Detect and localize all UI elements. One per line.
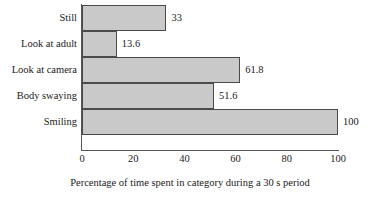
bar-look-at-adult <box>82 31 117 57</box>
bar-smiling <box>82 109 338 135</box>
x-axis-line <box>81 150 339 151</box>
x-tick-label-20: 20 <box>118 154 148 165</box>
x-tick-label-0: 0 <box>67 154 97 165</box>
category-label-still: Still <box>0 13 77 24</box>
bar-row: 100 <box>82 109 338 135</box>
bar-look-at-camera <box>82 57 240 83</box>
category-label-look-at-adult: Look at adult <box>0 39 77 50</box>
bar-value-label: 33 <box>166 13 182 24</box>
category-label-smiling: Smiling <box>0 117 77 128</box>
bar-row: 61.8 <box>82 57 338 83</box>
category-label-body-swaying: Body swaying <box>0 91 77 102</box>
bar-chart-figure: StillLook at adultLook at cameraBody swa… <box>0 0 380 201</box>
x-tick-label-40: 40 <box>169 154 199 165</box>
x-tick-label-60: 60 <box>221 154 251 165</box>
category-label-look-at-camera: Look at camera <box>0 65 77 76</box>
bar-row: 13.6 <box>82 31 338 57</box>
bar-still <box>82 5 166 31</box>
bar-value-label: 100 <box>338 117 359 128</box>
x-tick-label-100: 100 <box>323 154 353 165</box>
x-tick-label-80: 80 <box>272 154 302 165</box>
bar-value-label: 61.8 <box>240 65 263 76</box>
x-axis-title: Percentage of time spent in category dur… <box>0 178 380 189</box>
bar-row: 33 <box>82 5 338 31</box>
plot-area: 3313.661.851.6100 <box>82 0 338 150</box>
bar-value-label: 51.6 <box>214 91 237 102</box>
bar-value-label: 13.6 <box>117 39 140 50</box>
bar-row: 51.6 <box>82 83 338 109</box>
bar-body-swaying <box>82 83 214 109</box>
